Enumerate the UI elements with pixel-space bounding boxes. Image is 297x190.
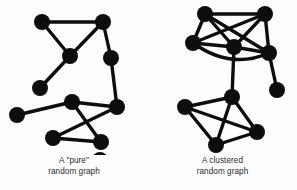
clustered-random-graph-diagram: [148, 0, 297, 155]
graph-node: [269, 82, 285, 98]
graph-node: [197, 6, 213, 22]
graph-node: [109, 99, 125, 115]
graph-node: [257, 6, 273, 22]
graph-node: [185, 35, 201, 51]
graph-node: [64, 94, 80, 110]
caption-line-2: random graph: [148, 167, 297, 178]
pure-random-graph-diagram: [0, 0, 148, 155]
panel-pure-random-graph: A "pure" random graph: [0, 0, 148, 190]
graph-node: [93, 134, 109, 150]
graph-edge: [17, 102, 72, 115]
graph-node: [226, 39, 242, 55]
caption-line-1: A "pure": [0, 156, 148, 167]
graph-node: [208, 137, 224, 153]
graph-node: [224, 89, 240, 105]
graph-edge: [53, 107, 117, 138]
caption-line-1: A clustered: [148, 156, 297, 167]
graph-node: [103, 50, 119, 66]
graph-node: [249, 124, 265, 140]
figure-canvas: A "pure" random graph A clustered random…: [0, 0, 297, 190]
panel-clustered-random-graph: A clustered random graph: [148, 0, 297, 190]
graph-node: [45, 130, 61, 146]
graph-node: [62, 48, 78, 64]
graph-node: [177, 99, 193, 115]
graph-node: [9, 107, 25, 123]
caption-pure-random-graph: A "pure" random graph: [0, 156, 148, 177]
graph-node: [34, 14, 50, 30]
graph-node: [261, 45, 277, 61]
graph-node: [95, 14, 111, 30]
graph-node: [92, 152, 108, 155]
caption-clustered-random-graph: A clustered random graph: [148, 156, 297, 177]
graph-node: [32, 80, 48, 96]
caption-line-2: random graph: [0, 167, 148, 178]
